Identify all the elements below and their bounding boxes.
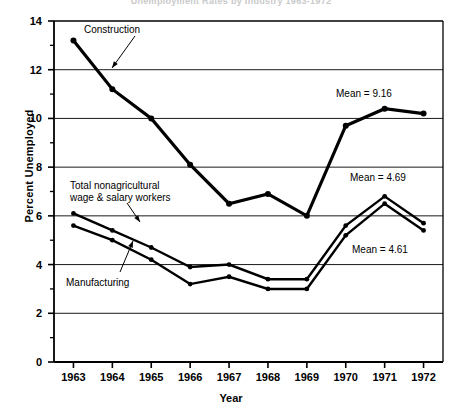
annotation-construction: Construction <box>84 24 140 36</box>
y-tick-label: 10 <box>12 113 42 123</box>
annotation-manufacturing: Manufacturing <box>66 277 129 289</box>
leader-total <box>127 203 140 222</box>
chart-figure: Unemployment Rates by Industry 1963-1972… <box>0 0 462 413</box>
leader-construction <box>112 36 135 68</box>
y-tick-label: 6 <box>12 211 42 221</box>
y-tick-label: 0 <box>12 357 42 367</box>
plot-canvas <box>0 0 462 413</box>
annotation-total-nonagricultural: Total nonagricultural wage & salary work… <box>70 180 171 203</box>
y-tick-label: 14 <box>12 16 42 26</box>
mean-label-total: Mean = 4.69 <box>350 172 406 183</box>
y-tick-label: 2 <box>12 308 42 318</box>
y-tick-label: 4 <box>12 260 42 270</box>
y-tick-label: 8 <box>12 162 42 172</box>
mean-label-manufacturing: Mean = 4.61 <box>352 244 408 255</box>
x-tick-label: 1972 <box>398 372 450 383</box>
mean-label-construction: Mean = 9.16 <box>336 88 392 99</box>
y-tick-label: 12 <box>12 65 42 75</box>
